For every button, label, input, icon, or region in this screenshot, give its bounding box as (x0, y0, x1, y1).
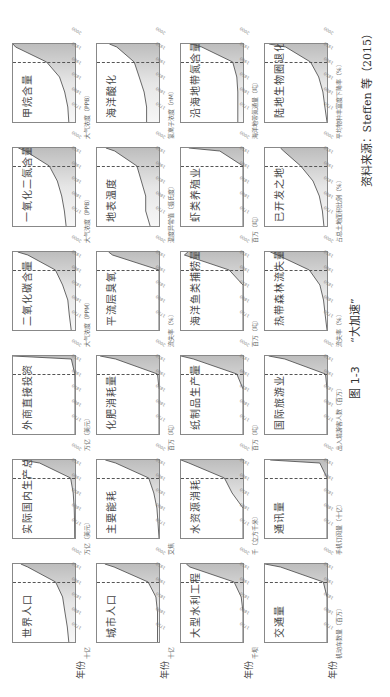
panel-title: 水资源消耗 (187, 479, 202, 534)
plot-area: 交通量 (264, 563, 328, 643)
y-axis-label: 百万（吨） (166, 421, 175, 451)
chart-panel: 二氧化碳含量175018001850190019502000大气浓度（PPM） (12, 244, 92, 347)
x-tick: 2000 (71, 26, 82, 35)
x-tick: 2000 (239, 26, 250, 35)
plot-area: 国际旅游业 (264, 355, 328, 435)
plot-area: 陆地生物圈退化 (264, 43, 328, 123)
plot-area: 水资源消耗 (180, 459, 244, 539)
x-axis-ticks: 175018001850190019502000 (242, 147, 250, 227)
panel-title: 世界人口 (19, 594, 34, 638)
chart-panel: 平流层臭氧175018001850190019502000流失率（%） (96, 244, 176, 347)
x-axis-ticks: 175018001850190019502000 (242, 563, 250, 643)
y-axis-label: 十亿 (166, 647, 175, 659)
x-tick: 2000 (323, 26, 334, 35)
chart-panel: 交通量175018001850190019502000机动车数量（百万）年份 (264, 556, 344, 659)
panel-title: 陆地生物圈退化 (271, 43, 286, 118)
y-axis-label: 十亿 (82, 647, 91, 659)
plot-area: 化肥消耗量 (96, 355, 160, 435)
chart-panel: 城市人口175018001850190019502000十亿年份 (96, 556, 176, 659)
panel-title: 虾类养殖业 (187, 167, 202, 222)
y-axis-label: 万亿（美元） (82, 415, 91, 451)
x-tick: 2000 (155, 26, 166, 35)
chart-panel: 热带森林流失量175018001850190019502000流失率（%） (264, 244, 344, 347)
panel-title: 外商直接投资 (19, 364, 34, 430)
panel-title: 沿海地带氮含量 (187, 43, 202, 118)
panel-title: 海洋鱼类捕捞量 (187, 251, 202, 326)
chart-panel: 通讯量175018001850190019502000手机订阅量（十亿） (264, 452, 344, 555)
x-axis-ticks: 175018001850190019502000 (326, 355, 334, 435)
x-axis-ticks: 175018001850190019502000 (74, 43, 82, 123)
x-axis-ticks: 175018001850190019502000 (158, 147, 166, 227)
x-axis-ticks: 175018001850190019502000 (242, 355, 250, 435)
1950-reference-line (97, 167, 159, 168)
plot-area: 沿海地带氮含量 (180, 43, 244, 123)
panel-title: 大型水利工程 (187, 572, 202, 638)
plot-area: 平流层臭氧 (96, 251, 160, 331)
1950-reference-line (265, 583, 327, 584)
plot-area: 虾类养殖业 (180, 147, 244, 227)
chart-panel: 纸制品生产量175018001850190019502000百万（吨） (180, 348, 260, 451)
plot-area: 热带森林流失量 (264, 251, 328, 331)
chart-panel: 已开发之地175018001850190019502000占总土地面积比例（%） (264, 140, 344, 243)
chart-panel: 一氧化二氮含量175018001850190019502000大气浓度（PPB） (12, 140, 92, 243)
chart-panel: 化肥消耗量175018001850190019502000百万（吨） (96, 348, 176, 451)
panel-title: 化肥消耗量 (103, 375, 118, 430)
plot-area: 海洋鱼类捕捞量 (180, 251, 244, 331)
panel-title: 实际国内生产总值 (19, 459, 34, 534)
plot-area: 甲烷含量 (12, 43, 76, 123)
plot-area: 地表温度 (96, 147, 160, 227)
chart-grid: 世界人口175018001850190019502000十亿年份实际国内生产总值… (12, 39, 342, 659)
chart-panel: 地表温度175018001850190019502000温度异常值（摄氏度） (96, 140, 176, 243)
1950-reference-line (97, 63, 159, 64)
chart-panel: 虾类养殖业175018001850190019502000百万（吨） (180, 140, 260, 243)
chart-panel: 世界人口175018001850190019502000十亿年份 (12, 556, 92, 659)
y-axis-label: 艾焦 (166, 543, 175, 555)
chart-panel: 陆地生物圈退化175018001850190019502000平均物种丰富度下降… (264, 36, 344, 139)
y-axis-label: 占总土地面积比例（%） (334, 177, 343, 243)
x-axis-ticks: 175018001850190019502000 (326, 251, 334, 331)
y-axis-label: 平均物种丰富度下降率（%） (334, 61, 343, 139)
x-axis-ticks: 175018001850190019502000 (74, 147, 82, 227)
chart-panel: 甲烷含量175018001850190019502000大气浓度（PPB） (12, 36, 92, 139)
y-axis-label: 百万（吨） (250, 317, 259, 347)
y-axis-label: 机动车数量（百万） (334, 605, 343, 659)
y-axis-label: 千（立方千米） (250, 513, 259, 555)
panel-title: 已开发之地 (271, 167, 286, 222)
y-axis-label: 大气浓度（PPB） (82, 92, 91, 139)
y-axis-label: 百万（吨） (250, 421, 259, 451)
x-axis-ticks: 175018001850190019502000 (74, 459, 82, 539)
x-axis-ticks: 175018001850190019502000 (74, 355, 82, 435)
year-axis-label: 年份 (242, 661, 255, 679)
plot-area: 大型水利工程 (180, 563, 244, 643)
panel-title: 地表温度 (103, 178, 118, 222)
y-axis-label: 大气浓度（PPB） (82, 196, 91, 243)
y-axis-label: 手机订阅量（十亿） (334, 501, 343, 555)
panel-title: 二氧化碳含量 (19, 260, 34, 326)
y-axis-label: 氢离子浓度（nM） (166, 88, 175, 139)
figure-number: 图 1-3 (349, 366, 362, 398)
panel-title: 交通量 (271, 605, 286, 638)
year-axis-label: 年份 (158, 661, 171, 679)
x-axis-ticks: 175018001850190019502000 (326, 563, 334, 643)
x-axis-ticks: 175018001850190019502000 (326, 147, 334, 227)
plot-area: 实际国内生产总值 (12, 459, 76, 539)
x-axis-ticks: 175018001850190019502000 (242, 251, 250, 331)
chart-panel: 水资源消耗175018001850190019502000千（立方千米） (180, 452, 260, 555)
plot-area: 纸制品生产量 (180, 355, 244, 435)
y-axis-label: 千坝 (250, 647, 259, 659)
chart-panel: 国际旅游业175018001850190019502000出入境游客人数（百万） (264, 348, 344, 451)
chart-panel: 海洋酸化175018001850190019502000氢离子浓度（nM） (96, 36, 176, 139)
1950-reference-line (265, 479, 327, 480)
plot-area: 海洋酸化 (96, 43, 160, 123)
x-axis-ticks: 175018001850190019502000 (158, 563, 166, 643)
panel-title: 国际旅游业 (271, 375, 286, 430)
panel-title: 一氧化二氮含量 (19, 147, 34, 222)
chart-panel: 主要能耗175018001850190019502000艾焦 (96, 452, 176, 555)
x-axis-ticks: 175018001850190019502000 (74, 251, 82, 331)
figure-title: “大加速” (349, 298, 362, 342)
chart-panel: 海洋鱼类捕捞量175018001850190019502000百万（吨） (180, 244, 260, 347)
y-axis-label: 大气浓度（PPM） (82, 299, 91, 347)
y-axis-label: 流失率（%） (334, 311, 343, 347)
y-axis-label: 温度异常值（摄氏度） (166, 183, 175, 243)
plot-area: 通讯量 (264, 459, 328, 539)
